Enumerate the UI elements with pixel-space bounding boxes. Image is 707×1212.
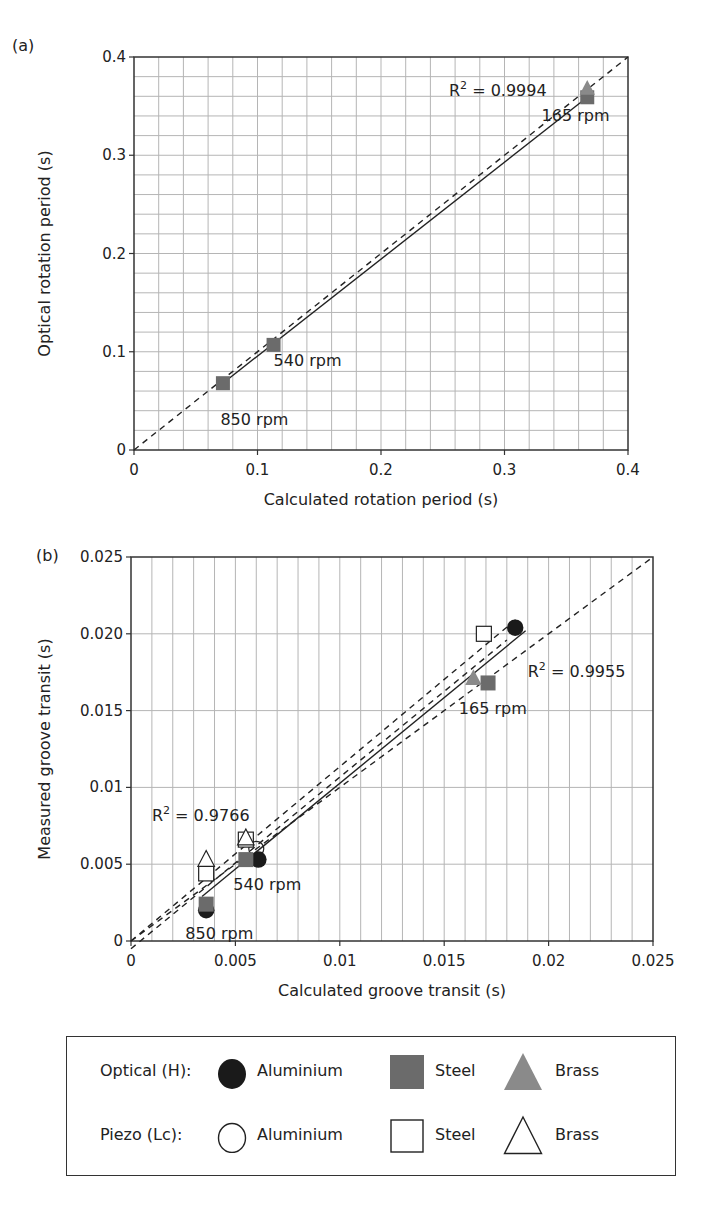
annotation: 540 rpm [233, 875, 301, 894]
x-tick-label: 0.2 [369, 461, 393, 479]
axis-ticks: 00.0050.010.0150.020.02500.0050.010.0150… [80, 548, 674, 970]
filled-square-marker [267, 338, 281, 352]
filled-triangle-icon [503, 1051, 543, 1091]
annotation: 165 rpm [459, 699, 527, 718]
y-axis-label: Optical rotation period (s) [35, 150, 54, 356]
annotation: R2 = 0.9955 [528, 660, 626, 681]
x-tick-label: 0.015 [423, 952, 466, 970]
y-tick-label: 0.015 [80, 702, 123, 720]
chart-a-rotation-period: 00.10.20.30.400.10.20.30.4Calculated rot… [0, 0, 707, 520]
x-tick-label: 0.02 [532, 952, 565, 970]
y-tick-label: 0.2 [102, 245, 126, 263]
legend-row-label: Piezo (Lc): [100, 1125, 182, 1144]
open-triangle-icon [503, 1115, 543, 1155]
y-tick-label: 0.020 [80, 625, 123, 643]
filled-square-marker [216, 376, 230, 390]
filled-circle-marker [507, 619, 524, 636]
y-tick-label: 0 [116, 441, 126, 459]
x-tick-label: 0 [126, 952, 136, 970]
open-triangle-marker [198, 851, 215, 867]
x-tick-label: 0 [129, 461, 139, 479]
open-square-icon [390, 1119, 424, 1153]
open-square-marker [476, 626, 491, 641]
filled-square-marker [481, 675, 496, 690]
annotation: 850 rpm [220, 410, 288, 429]
filled-triangle-marker [465, 669, 482, 685]
x-axis-label: Calculated rotation period (s) [264, 490, 499, 509]
y-tick-label: 0.1 [102, 343, 126, 361]
y-axis-label: Measured groove transit (s) [35, 638, 54, 859]
x-tick-label: 0.4 [616, 461, 640, 479]
x-tick-label: 0.005 [214, 952, 257, 970]
filled-square-marker [238, 852, 253, 867]
x-tick-label: 0.3 [493, 461, 517, 479]
annotation: 850 rpm [185, 924, 253, 943]
annotation: 540 rpm [274, 351, 342, 370]
filled-circle-icon [217, 1057, 249, 1089]
open-square-marker [199, 866, 214, 881]
chart-b-groove-transit: 00.0050.010.0150.020.02500.0050.010.0150… [0, 520, 707, 1020]
y-tick-label: 0.4 [102, 48, 126, 66]
open-circle-icon [217, 1121, 249, 1153]
x-tick-label: 0.025 [632, 952, 675, 970]
y-tick-label: 0 [113, 932, 123, 950]
upper-dashed-line [131, 618, 517, 941]
filled-triangle-marker [580, 80, 595, 95]
y-tick-label: 0.3 [102, 146, 126, 164]
y-tick-label: 0.01 [90, 778, 123, 796]
x-tick-label: 0.1 [246, 461, 270, 479]
x-axis-label: Calculated groove transit (s) [278, 981, 506, 1000]
figure: (a) (b) 00.10.20.30.400.10.20.30.4Calcul… [0, 0, 707, 1212]
annotation: 165 rpm [542, 106, 610, 125]
y-tick-label: 0.025 [80, 548, 123, 566]
annotation: R2 = 0.9994 [449, 79, 547, 100]
filled-square-icon [390, 1055, 424, 1089]
legend-row-piezo: Piezo (Lc): Aluminium Steel Brass [67, 1115, 675, 1155]
legend: Optical (H): Aluminium Steel Brass Piezo… [66, 1036, 676, 1176]
y-tick-label: 0.005 [80, 855, 123, 873]
identity-line [131, 557, 653, 941]
filled-square-marker [199, 897, 214, 912]
x-tick-label: 0.01 [323, 952, 356, 970]
annotation: R2 = 0.9766 [152, 804, 250, 825]
legend-row-label: Optical (H): [100, 1061, 192, 1080]
legend-row-optical: Optical (H): Aluminium Steel Brass [67, 1051, 675, 1091]
